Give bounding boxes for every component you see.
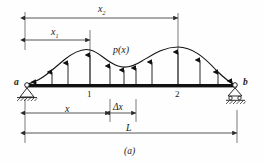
roller-triangle	[228, 88, 242, 96]
load-curve-px	[27, 47, 236, 85]
label-px: p(x)	[113, 44, 129, 55]
beam	[25, 84, 237, 87]
label-x1: x1	[51, 26, 58, 39]
label-station-2: 2	[175, 89, 180, 99]
label-dim-L: L	[126, 122, 132, 133]
figure-caption: (a)	[124, 146, 135, 156]
label-support-b: b	[243, 77, 248, 87]
beam-diagram-svg	[0, 0, 264, 163]
pin-node-a	[25, 83, 30, 88]
hatching-right	[226, 101, 246, 104]
label-station-1: 1	[87, 89, 92, 99]
roller-wheel	[229, 96, 232, 99]
pin-triangle	[20, 88, 34, 97]
label-x2: x2	[98, 3, 105, 16]
figure-container: x2 x1 p(x) a b 1 2 x Δx L (a)	[0, 0, 264, 163]
label-support-a: a	[14, 77, 19, 87]
hatching-left	[17, 98, 37, 101]
pin-node-b	[233, 83, 238, 88]
roller-wheel	[238, 96, 241, 99]
label-dim-x: x	[65, 103, 69, 114]
label-delta-x: Δx	[113, 102, 123, 112]
